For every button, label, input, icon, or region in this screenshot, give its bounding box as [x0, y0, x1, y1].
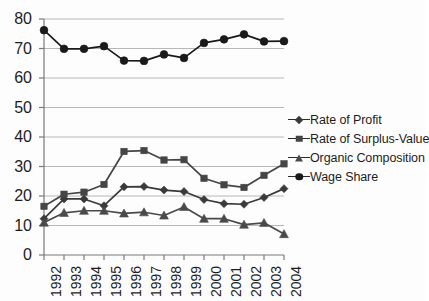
data-point-square — [221, 182, 227, 188]
y-axis-tick-label: 80 — [4, 11, 32, 27]
data-point-square — [261, 172, 267, 178]
x-axis-tick-label: 2001 — [229, 266, 243, 297]
data-point-circle — [240, 30, 248, 38]
data-point-square — [61, 191, 67, 197]
data-point-diamond — [260, 193, 268, 201]
y-axis-tick-label: 10 — [4, 218, 32, 234]
legend-item-wage-share[interactable]: Wage Share — [288, 167, 426, 186]
series-wage-share — [40, 26, 288, 64]
triangle-marker-icon — [288, 151, 310, 165]
data-point-square — [41, 203, 47, 209]
data-point-diamond — [280, 185, 288, 193]
square-marker-icon — [288, 132, 310, 146]
data-point-diamond — [180, 188, 188, 196]
chart-legend: Rate of ProfitRate of Surplus-ValueOrgan… — [288, 110, 426, 186]
data-point-diamond — [160, 186, 168, 194]
y-axis-tick-label: 50 — [4, 100, 32, 116]
data-point-square — [161, 157, 167, 163]
data-point-square — [201, 175, 207, 181]
diamond-marker-icon — [288, 113, 310, 127]
legend-item-rate-of-surplus-value[interactable]: Rate of Surplus-Value — [288, 129, 426, 148]
x-axis-tick-label: 1994 — [89, 266, 103, 297]
data-point-square — [141, 147, 147, 153]
data-point-circle — [140, 57, 148, 65]
data-point-circle — [180, 54, 188, 62]
y-axis-tick-label: 70 — [4, 41, 32, 57]
x-axis-tick-label: 2000 — [209, 266, 223, 297]
x-axis-tick-label: 1996 — [129, 266, 143, 297]
x-axis-tick-label: 1995 — [109, 266, 123, 297]
x-axis-tick-label: 1993 — [69, 266, 83, 297]
legend-label: Rate of Profit — [310, 113, 382, 127]
data-point-circle — [120, 57, 128, 65]
x-axis-tick-label: 1999 — [189, 266, 203, 297]
data-point-circle — [160, 51, 168, 59]
y-axis-tick-label: 60 — [4, 70, 32, 86]
data-point-circle — [260, 38, 268, 46]
data-point-circle — [80, 45, 88, 53]
data-point-triangle — [180, 203, 189, 211]
series-organic-composition — [40, 203, 289, 238]
data-point-square — [281, 161, 287, 167]
data-point-diamond — [220, 200, 228, 208]
x-axis-tick-label: 1998 — [169, 266, 183, 297]
legend-item-rate-of-profit[interactable]: Rate of Profit — [288, 110, 426, 129]
data-point-square — [241, 184, 247, 190]
y-axis-tick-label: 40 — [4, 129, 32, 145]
data-point-circle — [220, 35, 228, 43]
legend-label: Rate of Surplus-Value — [310, 132, 429, 146]
data-point-triangle — [280, 230, 289, 238]
data-point-square — [181, 157, 187, 163]
data-point-square — [121, 148, 127, 154]
data-point-square — [81, 189, 87, 195]
data-point-circle — [280, 37, 288, 45]
data-point-diamond — [240, 200, 248, 208]
x-axis-tick-label: 2002 — [249, 266, 263, 297]
data-point-circle — [200, 39, 208, 47]
data-point-circle — [40, 26, 48, 34]
legend-label: Organic Composition — [310, 151, 425, 165]
y-axis-tick-label: 30 — [4, 159, 32, 175]
circle-marker-icon — [288, 170, 310, 184]
legend-item-organic-composition[interactable]: Organic Composition — [288, 148, 426, 167]
data-point-diamond — [200, 196, 208, 204]
y-axis-tick-label: 20 — [4, 188, 32, 204]
x-axis-tick-label: 2004 — [289, 266, 303, 297]
x-axis-tick-label: 2003 — [269, 266, 283, 297]
y-axis-tick-label: 0 — [4, 247, 32, 263]
data-point-diamond — [140, 183, 148, 191]
data-point-circle — [100, 42, 108, 50]
x-axis-tick-label: 1992 — [49, 266, 63, 297]
x-axis-tick-label: 1997 — [149, 266, 163, 297]
data-point-square — [101, 181, 107, 187]
series-rate-of-surplus-value — [41, 147, 287, 209]
legend-label: Wage Share — [310, 170, 378, 184]
data-point-circle — [60, 45, 68, 53]
